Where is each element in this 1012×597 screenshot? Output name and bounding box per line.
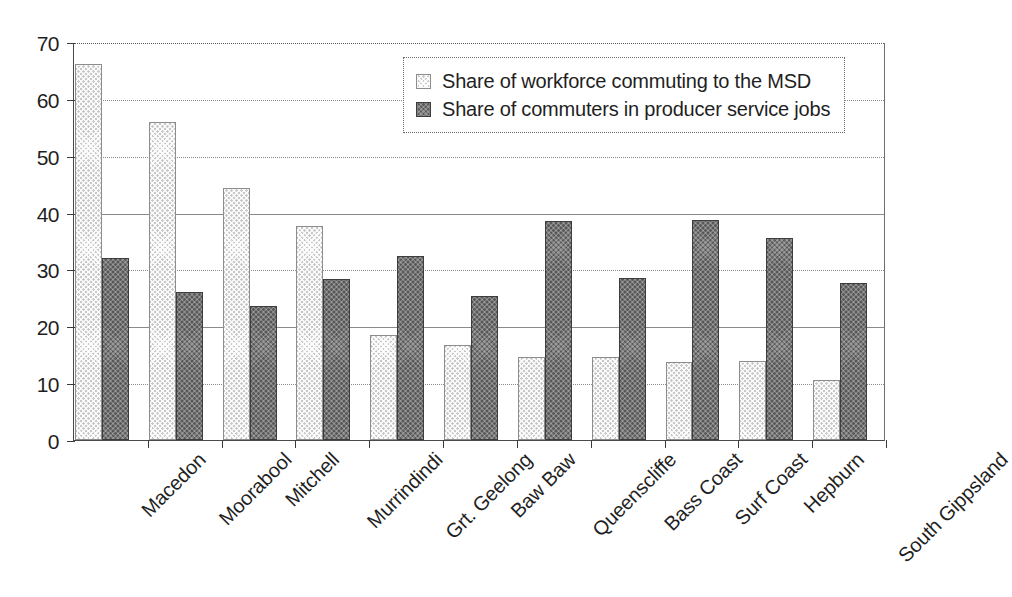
x-axis-tick-mark [369,440,370,448]
x-axis-tick-mark [443,440,444,448]
y-axis-tick-label: 60 [0,89,59,110]
bar-producer-service [545,221,572,440]
bar-workforce-commuting [592,357,619,440]
x-axis-category-label: Macedon [138,449,209,520]
bar-workforce-commuting [370,335,397,440]
bar-producer-service [323,279,350,440]
bar-workforce-commuting [666,362,693,440]
bar-workforce-commuting [518,357,545,440]
bar-producer-service [766,238,793,440]
bar-workforce-commuting [739,361,766,440]
legend-label: Share of commuters in producer service j… [442,99,830,119]
y-axis-tick-label: 10 [0,374,59,395]
bar-producer-service [397,256,424,440]
bar-workforce-commuting [223,188,250,440]
y-axis-tick-label: 70 [0,33,59,54]
bar-producer-service [840,283,867,440]
bar-workforce-commuting [75,64,102,440]
legend-label: Share of workforce commuting to the MSD [442,71,811,91]
x-axis-tick-mark [148,440,149,448]
x-axis-tick-mark [812,440,813,448]
legend-swatch-dark-icon [416,102,431,117]
legend-item: Share of workforce commuting to the MSD [416,67,830,95]
y-axis-tick-label: 50 [0,146,59,167]
y-axis-tick-label: 30 [0,260,59,281]
x-axis-tick-mark [591,440,592,448]
y-axis-tick-label: 0 [0,431,59,452]
x-axis-tick-mark [738,440,739,448]
bar-producer-service [250,306,277,440]
bar-group [222,43,296,440]
x-axis-tick-mark [295,440,296,448]
x-axis-tick-mark [517,440,518,448]
y-axis-tick-mark [67,441,75,442]
bar-producer-service [692,220,719,440]
x-axis-tick-mark [665,440,666,448]
bar-producer-service [102,258,129,440]
x-axis-category-label: Hepburn [800,449,867,516]
bar-workforce-commuting [296,226,323,440]
legend-swatch-light-icon [416,74,431,89]
bar-producer-service [471,296,498,440]
bar-workforce-commuting [149,122,176,440]
x-axis-category-labels: MacedonMooraboolMitchellMurrindindiGrt. … [73,449,885,597]
x-axis-category-label: Murrindindi [364,449,447,532]
chart-legend: Share of workforce commuting to the MSD … [403,57,845,133]
x-axis-tick-mark [886,440,887,448]
bar-workforce-commuting [813,380,840,440]
bar-producer-service [176,292,203,440]
y-axis-tick-label: 20 [0,317,59,338]
bar-workforce-commuting [444,345,471,440]
x-axis-tick-mark [222,440,223,448]
bar-group [295,43,369,440]
legend-item: Share of commuters in producer service j… [416,95,830,123]
bar-producer-service [619,278,646,440]
x-axis-category-label: Moorabool [215,449,295,529]
bar-group [148,43,222,440]
y-axis-tick-label: 40 [0,203,59,224]
x-axis-category-label: South Gippsland [895,449,1012,566]
bar-group [74,43,148,440]
